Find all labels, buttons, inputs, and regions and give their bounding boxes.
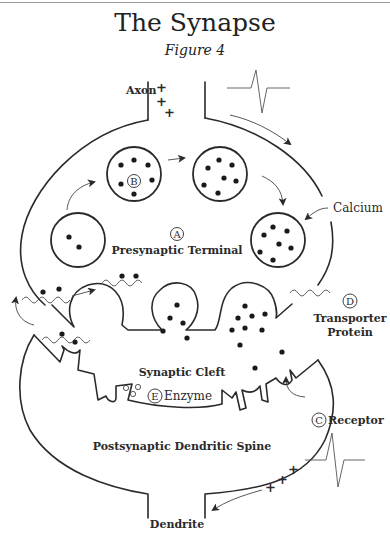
label-presynaptic-terminal: Presynaptic Terminal [111, 244, 242, 257]
presynaptic-membrane-right-lower [318, 222, 333, 285]
label-receptor: Receptor [328, 414, 384, 427]
transporter-wave [22, 297, 70, 303]
enzyme-molecule [130, 391, 135, 396]
label-enzyme: Enzyme [164, 389, 212, 403]
enzyme-molecule [135, 384, 140, 389]
label-transporter: Transporter [313, 312, 386, 325]
label-synaptic-cleft: Synaptic Cleft [139, 366, 227, 379]
marker-d: D [346, 296, 354, 307]
action-potential-dendrite [305, 433, 365, 487]
vesicle-recycle-arrow [67, 182, 94, 210]
presynaptic-bottom-membrane [52, 283, 292, 330]
axon-signal-arrow [230, 115, 290, 144]
vesicle-dock-arrow [262, 176, 283, 204]
label-axon: Axon [125, 84, 156, 97]
vesicle-empty [51, 213, 105, 267]
label-protein: Protein [327, 326, 373, 339]
charge-plus: + [265, 480, 276, 495]
postsynaptic-membrane-left [20, 335, 148, 518]
transporter-wave [290, 290, 330, 296]
charge-plus: + [288, 462, 299, 477]
presynaptic-membrane-right-upper [205, 118, 322, 196]
marker-b: B [130, 176, 137, 187]
marker-a: A [172, 229, 181, 240]
charge-plus: + [277, 472, 288, 487]
enzyme-molecule [123, 385, 128, 390]
marker-e: E [151, 391, 158, 402]
calcium-arrow [306, 208, 328, 219]
label-calcium: Calcium [333, 201, 383, 215]
synapse-diagram: + + + + + + [0, 0, 390, 539]
vesicle-docked [251, 213, 305, 267]
label-postsynaptic-dendritic-spine: Postsynaptic Dendritic Spine [93, 440, 272, 453]
vesicle-move-arrow [168, 158, 184, 160]
action-potential-axon [227, 70, 290, 113]
transporter-wave [42, 337, 90, 343]
marker-c: C [315, 415, 323, 426]
charge-plus: + [156, 80, 167, 95]
label-dendrite: Dendrite [150, 518, 204, 531]
charge-plus: + [164, 105, 175, 120]
receptor-arrow [286, 378, 305, 397]
